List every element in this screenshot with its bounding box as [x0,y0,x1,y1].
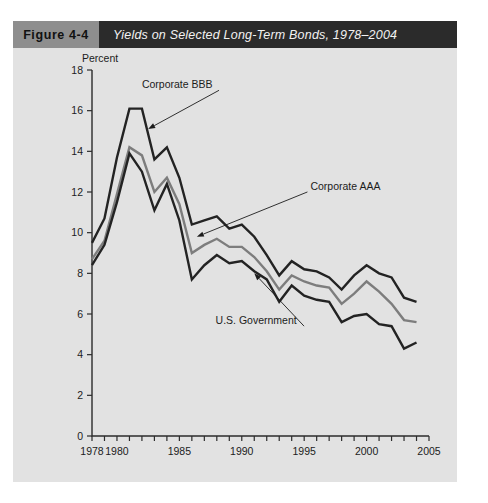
y-axis-tick-label: 6 [77,308,83,320]
chart-series-group [92,109,417,349]
y-axis-tick-label: 0 [77,430,83,442]
y-axis-tick-label: 8 [77,267,83,279]
series-line-corporate-aaa [92,147,417,322]
x-axis-tick-label: 1995 [293,445,317,457]
y-axis-label: Percent [82,52,118,64]
x-axis-tick-label: 1980 [105,445,129,457]
figure-title: Yields on Selected Long-Term Bonds, 1978… [99,21,457,48]
annotation-leader-corporate-aaa [203,192,307,234]
chart-axes [87,70,429,441]
series-label-corporate-aaa: Corporate AAA [310,180,380,192]
annotation-arrowhead-corporate-aaa [197,232,204,237]
y-axis-tick-label: 16 [71,104,83,116]
annotation-leader-corporate-bbb [154,90,219,125]
x-axis-tick-label: 1978 [80,445,104,457]
figure-number-badge: Figure 4-4 [13,21,99,48]
series-label-corporate-bbb: Corporate BBB [142,78,213,90]
y-axis-tick-labels: 024681012141618 [71,64,83,442]
annotation-arrowhead-corporate-bbb [148,123,155,129]
series-label-u-s-government: U.S. Government [216,314,297,326]
y-axis-tick-label: 14 [71,145,83,157]
x-axis-tick-label: 1985 [168,445,192,457]
y-axis-tick-label: 10 [71,226,83,238]
axis-lines [92,70,429,436]
y-axis-tick-label: 18 [71,64,83,76]
figure-header: Figure 4-4 Yields on Selected Long-Term … [13,21,457,48]
x-axis-tick-label: 1990 [230,445,254,457]
series-line-corporate-bbb [92,109,417,302]
x-axis-tick-label: 2000 [355,445,379,457]
plot-panel: 024681012141618 197819801985199019952000… [13,48,457,482]
x-axis-tick-label: 2005 [417,445,441,457]
y-axis-tick-label: 4 [77,348,83,360]
line-chart: 024681012141618 197819801985199019952000… [13,48,457,482]
y-axis-tick-label: 2 [77,389,83,401]
y-axis-unit-label: Percent [82,52,118,64]
figure-root: Figure 4-4 Yields on Selected Long-Term … [0,0,488,503]
y-axis-tick-label: 12 [71,186,83,198]
x-axis-tick-labels: 1978198019851990199520002005 [80,445,441,457]
